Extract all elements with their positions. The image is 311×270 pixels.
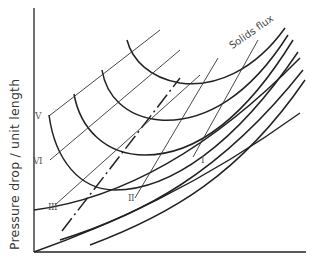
solids-flux-curves xyxy=(34,28,305,245)
line-V xyxy=(49,30,160,116)
label-V: V xyxy=(35,112,41,121)
flux-curve-4 xyxy=(49,52,298,190)
line-II xyxy=(135,58,218,198)
diagram-canvas xyxy=(0,0,311,270)
flux-curve-5 xyxy=(34,58,300,210)
zero-flux-curve xyxy=(34,113,300,252)
label-III: III xyxy=(48,203,57,212)
minimum-pressure-locus xyxy=(62,78,180,231)
label-II: II xyxy=(128,194,134,203)
label-VI: VI xyxy=(33,157,42,166)
y-axis-label: Pressure drop / unit length xyxy=(7,79,22,250)
line-VI xyxy=(50,50,180,160)
flux-curve-3 xyxy=(74,40,293,155)
flux-curve-1 xyxy=(127,28,285,84)
label-I: I xyxy=(201,156,204,165)
line-I xyxy=(193,40,258,157)
